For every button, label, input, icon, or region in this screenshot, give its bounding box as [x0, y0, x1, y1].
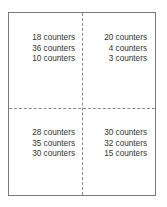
- horizontal-dashed-divider: [9, 108, 155, 109]
- counter-label: 4 counters: [109, 44, 147, 55]
- counter-label: 28 counters: [32, 128, 75, 139]
- vertical-dashed-divider: [82, 13, 83, 195]
- counter-label: 20 counters: [104, 33, 147, 44]
- counter-label: 3 counters: [109, 54, 147, 65]
- counter-label: 30 counters: [104, 128, 147, 139]
- counter-label: 36 counters: [32, 44, 75, 55]
- quadrant-bottom-right: 30 counters 32 counters 15 counters: [104, 128, 147, 160]
- quadrant-top-left: 18 counters 36 counters 10 counters: [32, 33, 75, 65]
- counter-label: 32 counters: [104, 139, 147, 150]
- counter-label: 15 counters: [104, 149, 147, 160]
- counter-label: 30 counters: [32, 149, 75, 160]
- quadrant-bottom-left: 28 counters 35 counters 30 counters: [32, 128, 75, 160]
- quadrant-top-right: 20 counters 4 counters 3 counters: [104, 33, 147, 65]
- counter-label: 10 counters: [32, 54, 75, 65]
- counter-label: 35 counters: [32, 139, 75, 150]
- counter-label: 18 counters: [32, 33, 75, 44]
